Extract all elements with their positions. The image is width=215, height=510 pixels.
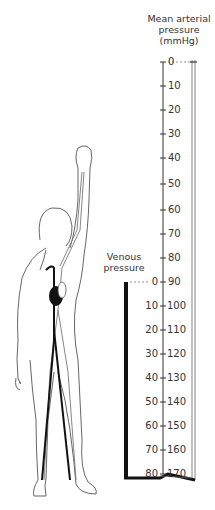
arterial-tick-label: 40 <box>168 153 181 163</box>
venous-tick-label: 10 <box>140 301 158 311</box>
arterial-title-line3: (mmHg) <box>143 36 215 46</box>
venous-tick-label: 20 <box>140 325 158 335</box>
arterial-tick-label: 110 <box>167 325 186 335</box>
venous-title-line2: pressure <box>96 263 152 273</box>
arterial-title-line1: Mean arterial <box>143 14 215 24</box>
venous-tick-label: 80 <box>140 469 158 479</box>
arterial-tick-label: 160 <box>167 445 186 455</box>
arteries <box>44 172 84 480</box>
arterial-tick-label: 140 <box>167 397 186 407</box>
arterial-tick-label: 100 <box>167 301 186 311</box>
arterial-tick-label: 130 <box>167 373 186 383</box>
arterial-tick-label: 150 <box>167 421 186 431</box>
venous-tick-label: 50 <box>140 397 158 407</box>
venous-tick-label: 30 <box>140 349 158 359</box>
human-figure <box>16 146 97 496</box>
arterial-tick-label: 30 <box>168 129 181 139</box>
venous-title-line1: Venous <box>96 252 152 262</box>
venous-column <box>124 282 128 478</box>
arterial-tick-label: 90 <box>168 277 181 287</box>
venous-tick-label: 60 <box>140 421 158 431</box>
arterial-tick-label: 0 <box>168 57 174 67</box>
arterial-tick-label: 170 <box>167 469 186 479</box>
arterial-title-line2: pressure <box>143 25 215 35</box>
arterial-tick-label: 10 <box>168 81 181 91</box>
venous-tick-label: 70 <box>140 445 158 455</box>
arterial-tick-label: 60 <box>168 205 181 215</box>
arterial-tick-label: 120 <box>167 349 186 359</box>
arterial-tick-label: 70 <box>168 229 181 239</box>
arterial-tick-label: 80 <box>168 253 181 263</box>
venous-tick-label: 40 <box>140 373 158 383</box>
arterial-tick-label: 20 <box>168 105 181 115</box>
venous-tick-label: 0 <box>140 277 158 287</box>
arterial-tick-label: 50 <box>168 179 181 189</box>
